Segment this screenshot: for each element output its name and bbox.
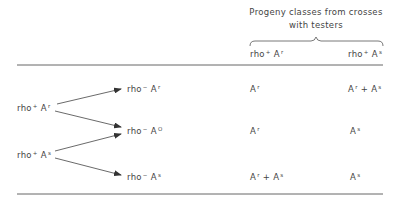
arrow-parent-1-to-row-1 (55, 134, 121, 151)
row-cell-col1: Ar (250, 127, 260, 136)
row-cell-col2: As (350, 127, 360, 136)
row-cell-col1: Ar + As (250, 173, 283, 182)
row-cell-col2: Ar + As (348, 85, 381, 94)
parent-strain-1: rho+ Ar (17, 104, 50, 113)
row-strain: rho− AO (127, 127, 163, 136)
arrow-parent-0-to-row-1 (55, 111, 121, 127)
row-strain: rho− As (127, 173, 161, 182)
column-header-1: rho+ Ar (250, 50, 283, 59)
header-brace (250, 37, 383, 46)
row-cell-col2: As (350, 173, 360, 182)
column-header-2: rho+ As (348, 50, 382, 59)
arrow-parent-0-to-row-0 (57, 89, 121, 104)
diagram-lines (0, 0, 398, 205)
row-cell-col1: Ar (250, 85, 260, 94)
row-strain: rho− Ar (127, 85, 160, 94)
arrow-parent-1-to-row-2 (55, 158, 121, 175)
parent-strain-2: rho+ As (17, 151, 51, 160)
